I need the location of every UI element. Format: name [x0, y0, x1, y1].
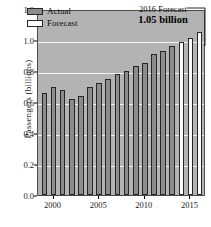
y-axis-tick-label: 0.4 — [23, 129, 34, 139]
bar-2000 — [51, 87, 57, 196]
passenger-forecast-chart: Passengers (billions) 0.00.20.40.60.81.0… — [0, 0, 211, 227]
x-axis-tick-label: 2005 — [90, 200, 107, 210]
bar-2006 — [105, 79, 111, 195]
legend-item-actual: Actual — [27, 6, 78, 16]
bar-2012 — [160, 51, 166, 195]
x-axis-tick-mark — [144, 196, 145, 199]
bar-2007 — [115, 74, 121, 195]
bar-2010 — [142, 63, 148, 195]
chart-legend: ActualForecast — [27, 6, 78, 28]
x-axis-ticks: 2000200520102015 — [37, 196, 205, 222]
bar-2002 — [69, 99, 75, 195]
bar-2015 — [188, 38, 194, 195]
annotation-title: 2016 Forecast — [121, 4, 205, 14]
bar-series — [38, 11, 204, 195]
legend-item-forecast: Forecast — [27, 18, 78, 28]
y-axis-tick-label: 0.6 — [23, 98, 34, 108]
x-axis-tick-mark — [189, 196, 190, 199]
bar-2009 — [133, 66, 139, 195]
bar-1999 — [42, 93, 48, 195]
bar-2005 — [96, 83, 102, 195]
y-axis-tick-label: 0.2 — [23, 160, 34, 170]
x-axis-tick-label: 2010 — [135, 200, 152, 210]
legend-swatch-actual-icon — [27, 8, 43, 15]
y-axis-ticks: 0.00.20.40.60.81.01.2 — [0, 0, 37, 227]
bar-2016 — [197, 32, 203, 195]
bar-2001 — [60, 90, 66, 195]
x-axis-tick-mark — [98, 196, 99, 199]
y-axis-tick-label: 1.0 — [23, 36, 34, 46]
y-axis-tick-label: 0.0 — [23, 191, 34, 201]
x-axis-tick-label: 2000 — [44, 200, 61, 210]
x-axis-tick-label: 2015 — [181, 200, 198, 210]
forecast-annotation: 2016 Forecast 1.05 billion — [121, 4, 205, 26]
legend-swatch-forecast-icon — [27, 20, 43, 27]
plot-area — [37, 10, 205, 196]
legend-label: Actual — [47, 6, 71, 16]
bar-2011 — [151, 54, 157, 195]
bar-2014 — [179, 42, 185, 195]
bar-2004 — [87, 87, 93, 196]
bar-2008 — [124, 71, 130, 195]
bar-2003 — [78, 96, 84, 195]
legend-label: Forecast — [47, 18, 78, 28]
annotation-value: 1.05 billion — [121, 14, 205, 26]
bar-2013 — [169, 46, 175, 195]
x-axis-tick-mark — [53, 196, 54, 199]
y-axis-tick-label: 0.8 — [23, 67, 34, 77]
